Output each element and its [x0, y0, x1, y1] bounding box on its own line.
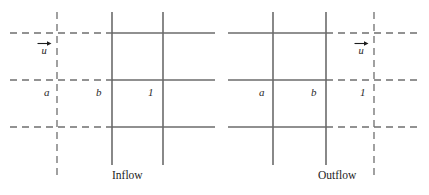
inflow-outflow-diagram: u a b 1 Inflow u a b 1 Outflow: [0, 0, 429, 195]
inflow-panel-lines: [10, 12, 215, 180]
outflow-node-label-1: 1: [360, 87, 366, 98]
inflow-node-label-b: b: [96, 87, 102, 98]
outflow-caption: Outflow: [318, 170, 356, 182]
inflow-velocity-text: u: [41, 45, 46, 56]
inflow-caption: Inflow: [112, 170, 143, 182]
outflow-node-label-b: b: [311, 87, 317, 98]
outflow-panel-lines: [228, 12, 420, 180]
outflow-velocity-text: u: [358, 45, 363, 56]
inflow-node-label-a: a: [44, 87, 50, 98]
inflow-velocity-label: u: [36, 41, 52, 57]
outflow-velocity-label: u: [353, 41, 369, 57]
inflow-node-label-1: 1: [148, 87, 154, 98]
right-arrow-icon: [354, 41, 369, 46]
right-arrow-icon: [37, 41, 52, 46]
outflow-node-label-a: a: [259, 87, 265, 98]
